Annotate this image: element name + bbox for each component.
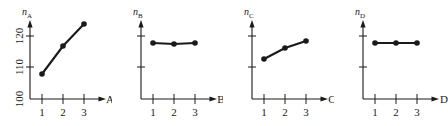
data-point-c-3 [303,38,309,44]
data-point-c-2 [282,45,288,51]
data-point-d-3 [414,40,420,46]
data-point-a-2 [60,43,66,49]
data-point-a-1 [39,71,45,77]
y-axis-b [138,20,143,99]
data-point-a-3 [81,21,87,27]
x-tick-label-c-1: 1 [261,106,267,118]
x-tick-label-c-3: 3 [303,106,309,118]
series-label-d: nD [355,6,365,20]
data-line-a [42,24,84,74]
series-label-c: nC [244,6,254,20]
data-point-c-1 [261,56,267,62]
x-tick-label-d-2: 2 [393,106,399,118]
series-label-b: nB [133,6,143,20]
x-axis-d [363,96,439,101]
y-tick-label-a-120: 120 [13,27,25,44]
data-point-b-2 [171,41,177,47]
chart-panel-d: 1 2 3 D nD [333,0,445,126]
x-tick-label-a-1: 1 [39,106,45,118]
x-tick-label-d-1: 1 [372,106,378,118]
chart-panel-b: 1 2 3 B nB [111,0,223,126]
x-tick-label-b-2: 2 [171,106,177,118]
data-point-b-3 [192,40,198,46]
x-axis-c [252,96,328,101]
x-axis-b [141,96,217,101]
series-label-a: nA [22,6,32,20]
x-axis-name-d: D [440,93,448,105]
x-tick-label-b-3: 3 [192,106,198,118]
multi-panel-line-chart-figure: 120 110 100 1 2 3 A nA [0,0,448,126]
x-axis-a [30,96,106,101]
data-point-d-2 [393,40,399,46]
y-tick-label-a-100: 100 [13,90,25,107]
chart-panel-a: 120 110 100 1 2 3 A nA [0,0,112,126]
x-tick-label-a-3: 3 [81,106,87,118]
x-tick-label-b-1: 1 [150,106,156,118]
x-tick-label-a-2: 2 [60,106,66,118]
y-axis-a [27,20,32,99]
y-axis-c [249,20,254,99]
data-point-d-1 [372,40,378,46]
y-tick-label-a-110: 110 [13,58,25,75]
y-axis-d [360,20,365,99]
x-tick-label-c-2: 2 [282,106,288,118]
chart-panel-c: 1 2 3 C nC [222,0,334,126]
data-point-b-1 [150,40,156,46]
x-tick-label-d-3: 3 [414,106,420,118]
